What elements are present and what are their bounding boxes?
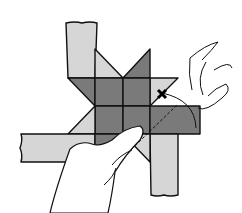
right-hand — [189, 42, 232, 109]
top-strip — [66, 22, 97, 78]
star-center-tl — [95, 78, 123, 106]
star-center-bl — [95, 106, 123, 134]
right-flap — [150, 106, 200, 134]
bottom-strip — [150, 134, 178, 196]
star-fold-diagram — [0, 0, 242, 213]
star-point-left-light — [68, 106, 95, 134]
star-point-top-light — [95, 49, 123, 78]
star-point-top-right — [123, 49, 150, 78]
star-point-top-left — [68, 78, 95, 106]
folding-illustration — [0, 0, 242, 213]
star-center-tr — [123, 78, 150, 106]
